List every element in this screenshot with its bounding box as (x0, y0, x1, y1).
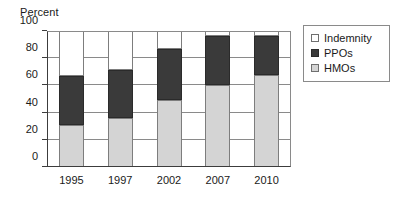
bar-segment-indemnity-1997 (108, 31, 133, 70)
bar-stack (108, 31, 133, 167)
bar-stack (254, 31, 279, 167)
y-tick-label: 80 (26, 42, 38, 53)
bar-segment-ppos-1995 (59, 76, 84, 125)
bar-group-2002 (157, 31, 182, 167)
x-tick-label-2002: 2002 (157, 175, 181, 186)
x-tick-label-1997: 1997 (108, 175, 132, 186)
legend-label-hmos: HMOs (324, 63, 355, 74)
legend-item-hmos: HMOs (311, 61, 383, 75)
y-tick-label: 40 (26, 96, 38, 107)
bar-segment-indemnity-2007 (205, 31, 230, 36)
bar-segment-ppos-1997 (108, 70, 133, 118)
bar-stack (59, 31, 84, 167)
bar-segment-hmos-1997 (108, 118, 133, 167)
legend-swatch-indemnity-icon (311, 34, 319, 42)
legend-label-indemnity: Indemnity (324, 33, 372, 44)
bar-stack (157, 31, 182, 167)
legend-item-indemnity: Indemnity (311, 31, 383, 45)
bars-layer (47, 31, 291, 167)
plot-area: 020406080100 19951997200220072010 (47, 31, 291, 167)
bar-segment-ppos-2002 (157, 49, 182, 101)
bar-segment-hmos-2007 (205, 85, 230, 167)
bar-segment-hmos-1995 (59, 125, 84, 167)
bar-segment-hmos-2002 (157, 100, 182, 167)
bar-stack (205, 31, 230, 167)
legend-label-ppos: PPOs (324, 48, 353, 59)
bar-segment-hmos-2010 (254, 75, 279, 167)
bar-segment-ppos-2007 (205, 36, 230, 85)
bar-group-1995 (59, 31, 84, 167)
legend-swatch-ppos-icon (311, 49, 319, 57)
stacked-bar-chart: Percent 020406080100 1995199720022007201… (0, 0, 397, 203)
y-tick-label: 60 (26, 69, 38, 80)
legend-item-ppos: PPOs (311, 46, 383, 60)
y-tick-label: 20 (26, 123, 38, 134)
bar-segment-indemnity-2002 (157, 31, 182, 49)
bar-group-2010 (254, 31, 279, 167)
x-tick-label-2007: 2007 (206, 175, 230, 186)
y-tick-label: 100 (20, 15, 38, 26)
bar-segment-indemnity-1995 (59, 31, 84, 76)
bar-group-1997 (108, 31, 133, 167)
legend: Indemnity PPOs HMOs (303, 25, 390, 82)
x-tick-label-2010: 2010 (254, 175, 278, 186)
x-tick-label-1995: 1995 (59, 175, 83, 186)
bar-group-2007 (205, 31, 230, 167)
bar-segment-indemnity-2010 (254, 31, 279, 36)
y-tick-label: 0 (32, 151, 38, 162)
legend-swatch-hmos-icon (311, 64, 319, 72)
bar-segment-ppos-2010 (254, 36, 279, 74)
